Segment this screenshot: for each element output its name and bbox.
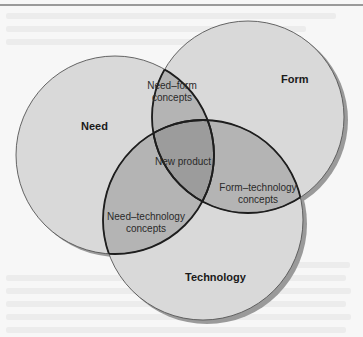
- form-label: Form: [281, 73, 309, 85]
- need-label: Need: [81, 120, 108, 132]
- technology-label: Technology: [185, 271, 247, 283]
- page-background: Need Form Technology Need–form concepts …: [0, 0, 363, 337]
- venn-diagram: Need Form Technology Need–form concepts …: [0, 0, 363, 337]
- need-form-label-line2: concepts: [152, 92, 192, 103]
- need-technology-label-line2: concepts: [126, 223, 166, 234]
- need-technology-label-line1: Need–technology: [107, 211, 185, 222]
- need-form-label-line1: Need–form: [147, 80, 196, 91]
- form-technology-label-line1: Form–technology: [219, 182, 296, 193]
- new-product-label: New product: [155, 156, 211, 167]
- form-technology-label-line2: concepts: [238, 194, 278, 205]
